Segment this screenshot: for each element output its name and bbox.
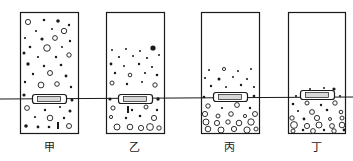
particle	[55, 56, 57, 58]
container-jia	[21, 13, 79, 134]
container-label-ding: 丁	[311, 141, 322, 154]
particle	[47, 115, 53, 121]
particle	[111, 106, 115, 110]
particle	[309, 88, 311, 90]
container-label-bing: 丙	[224, 141, 235, 154]
particle	[246, 78, 248, 80]
particle	[125, 117, 127, 119]
particle	[316, 122, 322, 128]
particle	[221, 107, 223, 109]
particle	[253, 95, 256, 98]
particle	[205, 126, 211, 132]
particle	[311, 129, 316, 134]
particle	[343, 129, 346, 132]
particle	[144, 72, 146, 74]
float-block-core-ding	[306, 93, 329, 98]
particle	[24, 81, 26, 83]
particle	[303, 118, 306, 121]
particle	[26, 62, 29, 65]
particle	[147, 124, 154, 131]
particle	[244, 127, 250, 133]
container-bing	[202, 13, 260, 134]
particle	[56, 19, 60, 23]
particle	[206, 104, 210, 108]
particle	[304, 123, 309, 128]
particle	[297, 110, 299, 112]
particle	[156, 109, 158, 111]
particle	[204, 77, 206, 79]
particle	[250, 68, 252, 70]
container-label-jia: 甲	[44, 141, 55, 154]
particle	[232, 76, 234, 78]
particle	[35, 30, 37, 32]
particle	[302, 129, 305, 132]
particle	[53, 36, 58, 41]
particle	[253, 112, 258, 117]
particle	[291, 122, 298, 129]
particle	[29, 46, 32, 49]
float-block-ding	[301, 91, 335, 100]
float-block-core-jia	[38, 97, 61, 102]
particle	[65, 75, 68, 78]
particle	[339, 110, 343, 114]
particle	[128, 73, 132, 77]
particle	[330, 124, 335, 129]
particle-bar	[57, 122, 59, 129]
particle	[253, 86, 255, 88]
particle	[44, 45, 51, 52]
particle	[37, 126, 40, 129]
particle	[151, 115, 156, 120]
particle	[132, 55, 134, 57]
particle	[127, 124, 133, 130]
particle	[229, 112, 234, 117]
particle	[110, 63, 113, 66]
particle	[32, 73, 34, 75]
particle	[51, 28, 53, 30]
container-yi	[107, 13, 165, 134]
particle	[139, 50, 141, 52]
particle	[249, 107, 251, 109]
particle	[323, 129, 325, 131]
particle	[118, 56, 120, 58]
particle	[226, 120, 230, 124]
container-label-yi: 乙	[129, 141, 140, 154]
particle	[69, 110, 72, 113]
particle	[235, 103, 240, 108]
particle	[43, 19, 46, 22]
particle	[340, 116, 344, 120]
particle	[68, 24, 70, 26]
particle	[157, 126, 161, 130]
particle-bar	[127, 106, 129, 113]
particle	[254, 127, 258, 131]
particle	[305, 101, 309, 105]
particle	[61, 46, 63, 48]
particle	[67, 53, 71, 57]
particle	[24, 37, 26, 39]
particle	[114, 72, 116, 74]
particle	[139, 115, 142, 118]
particle	[37, 56, 39, 58]
particle	[216, 114, 220, 118]
particle	[333, 101, 337, 105]
particle	[231, 126, 236, 131]
particle	[222, 67, 225, 70]
particle	[339, 122, 345, 128]
particle	[43, 65, 45, 67]
particle	[291, 129, 295, 133]
particle	[290, 116, 294, 120]
particle	[125, 48, 127, 50]
particle	[40, 37, 43, 40]
particle	[243, 114, 246, 117]
float-block-core-yi	[124, 97, 147, 102]
particle	[24, 124, 28, 128]
particle	[225, 86, 227, 88]
particle	[218, 127, 224, 133]
particle	[111, 49, 113, 51]
particle	[314, 115, 319, 120]
particle	[156, 74, 159, 77]
particle	[67, 124, 72, 129]
particle	[237, 70, 239, 72]
particle	[236, 120, 242, 126]
sedimentation-figure: 甲乙丙丁	[0, 0, 353, 161]
particle	[323, 87, 325, 89]
